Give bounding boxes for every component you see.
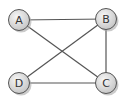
node-label-b: B [102, 13, 110, 26]
graph-diagram: A B D C [0, 0, 129, 101]
edges [19, 19, 106, 83]
node-c: C [96, 73, 119, 96]
node-label-a: A [15, 14, 23, 27]
edge-a-b [19, 19, 106, 20]
node-b: B [96, 9, 119, 32]
node-label-d: D [15, 77, 23, 90]
node-a: A [9, 10, 32, 33]
node-label-c: C [102, 77, 110, 90]
